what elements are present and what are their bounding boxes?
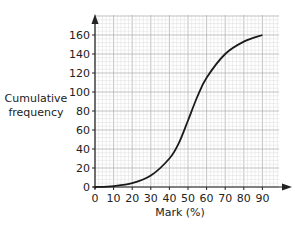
svg-text:50: 50 (181, 192, 195, 205)
x-axis-label: Mark (%) (145, 206, 215, 219)
svg-text:40: 40 (162, 192, 176, 205)
y-axis-label: Cumulative frequency (4, 92, 68, 120)
y-axis-label-line2: frequency (4, 106, 68, 120)
svg-text:10: 10 (107, 192, 121, 205)
grid (95, 15, 279, 187)
svg-text:0: 0 (92, 192, 99, 205)
svg-text:120: 120 (69, 67, 90, 80)
svg-text:80: 80 (76, 105, 90, 118)
svg-text:140: 140 (69, 48, 90, 61)
svg-text:40: 40 (76, 143, 90, 156)
svg-text:20: 20 (76, 162, 90, 175)
svg-text:20: 20 (125, 192, 139, 205)
svg-text:160: 160 (69, 29, 90, 42)
svg-text:70: 70 (218, 192, 232, 205)
svg-text:60: 60 (76, 124, 90, 137)
svg-text:0: 0 (83, 181, 90, 194)
svg-text:90: 90 (255, 192, 269, 205)
svg-text:60: 60 (200, 192, 214, 205)
svg-text:100: 100 (69, 86, 90, 99)
svg-text:80: 80 (237, 192, 251, 205)
svg-text:30: 30 (144, 192, 158, 205)
y-axis-label-line1: Cumulative (4, 92, 68, 106)
